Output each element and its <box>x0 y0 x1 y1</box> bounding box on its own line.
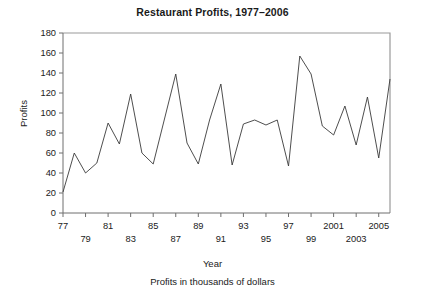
x-tick-label: 93 <box>238 221 248 231</box>
x-tick-label: 91 <box>216 234 226 244</box>
x-tick-label: 2005 <box>368 221 389 231</box>
x-tick-label: 77 <box>58 221 68 231</box>
y-tick-label: 160 <box>40 48 56 58</box>
chart-caption: Profits in thousands of dollars <box>0 276 425 287</box>
x-tick-label: 2003 <box>346 234 367 244</box>
x-tick-label: 81 <box>103 221 113 231</box>
x-tick-labels: 777981838587899193959799200120032005 <box>58 221 389 244</box>
x-tick-label: 85 <box>148 221 158 231</box>
y-axis-ticks <box>59 33 63 213</box>
y-tick-label: 20 <box>46 188 56 198</box>
y-tick-labels: 020406080100120140160180 <box>40 28 56 218</box>
x-tick-label: 97 <box>283 221 293 231</box>
x-tick-label: 87 <box>171 234 181 244</box>
y-tick-label: 40 <box>46 168 56 178</box>
x-axis-ticks <box>63 213 379 217</box>
y-tick-label: 120 <box>40 88 56 98</box>
chart-figure: Restaurant Profits, 1977–2006 Profits 02… <box>0 0 425 296</box>
line-chart-plot: 020406080100120140160180 777981838587899… <box>0 0 425 296</box>
x-axis-label: Year <box>0 258 425 269</box>
y-tick-label: 80 <box>46 128 56 138</box>
x-tick-label: 83 <box>125 234 135 244</box>
y-tick-label: 0 <box>51 208 56 218</box>
y-tick-label: 100 <box>40 108 56 118</box>
x-tick-label: 89 <box>193 221 203 231</box>
x-tick-label: 79 <box>80 234 90 244</box>
y-tick-label: 60 <box>46 148 56 158</box>
profits-data-line <box>63 56 390 192</box>
y-tick-label: 140 <box>40 68 56 78</box>
x-tick-label: 99 <box>306 234 316 244</box>
y-tick-label: 180 <box>40 28 56 38</box>
x-tick-label: 2001 <box>323 221 344 231</box>
x-tick-label: 95 <box>261 234 271 244</box>
